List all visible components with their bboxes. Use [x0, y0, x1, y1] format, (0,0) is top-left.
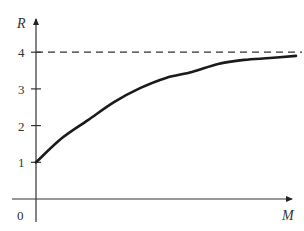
y-tick-label: 3 [18, 82, 25, 97]
x-axis-label: M [281, 208, 295, 223]
y-tick-label: 4 [18, 45, 25, 60]
data-curve [36, 56, 296, 162]
y-tick-label: 2 [18, 119, 25, 134]
chart: 1234 R M 0 [0, 0, 304, 231]
origin-label: 0 [17, 208, 24, 223]
y-tick-label: 1 [18, 155, 25, 170]
y-ticks: 1234 [18, 45, 41, 170]
y-axis-label: R [16, 16, 26, 31]
